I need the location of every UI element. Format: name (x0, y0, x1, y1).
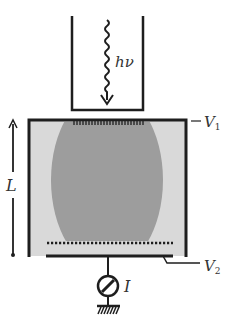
photon-energy-label: hν (115, 53, 134, 71)
ground-icon (97, 306, 120, 314)
v1-label: V1 (204, 113, 221, 132)
photoionization-chamber-diagram: hν V1 (0, 0, 232, 330)
current-label: I (123, 277, 131, 296)
photon-wave-arrow-icon (101, 20, 113, 104)
length-label: L (5, 176, 17, 195)
v2-label: V2 (204, 257, 221, 276)
ammeter-icon (98, 276, 118, 296)
